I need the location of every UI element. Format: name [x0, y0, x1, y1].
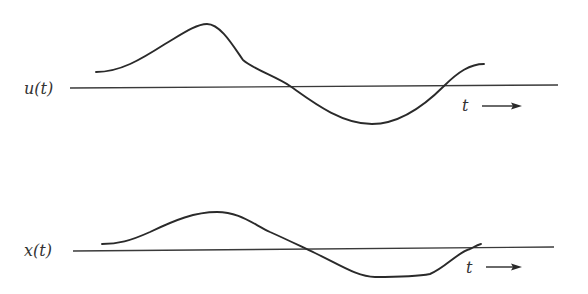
- input-signal-label: u(t): [24, 79, 53, 98]
- output-signal-curve: [102, 212, 481, 277]
- output-time-axis: [73, 247, 554, 251]
- output-signal-label: x(t): [24, 241, 52, 260]
- output-time-label: t: [466, 258, 473, 277]
- panel-input-signal: u(t) t: [24, 24, 558, 124]
- input-signal-curve: [96, 24, 484, 124]
- diagram-canvas: u(t) t x(t) t: [0, 0, 588, 294]
- input-time-axis: [70, 85, 558, 88]
- signal-diagram: u(t) t x(t) t: [0, 0, 588, 294]
- input-time-label: t: [462, 96, 469, 115]
- input-time-arrow-icon: [482, 103, 522, 110]
- output-time-arrow-icon: [486, 264, 522, 271]
- panel-output-signal: x(t) t: [24, 212, 554, 277]
